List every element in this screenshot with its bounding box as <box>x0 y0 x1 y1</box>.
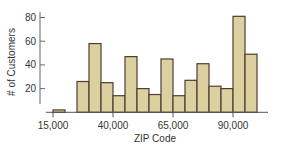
x-ticks: 15,00040,00065,00090,000 <box>38 112 249 131</box>
histogram-bar <box>197 64 209 113</box>
bars-group <box>53 16 257 112</box>
histogram-bar <box>233 16 245 112</box>
histogram-bar <box>221 89 233 113</box>
x-tick-label: 15,000 <box>38 120 69 131</box>
histogram-bar <box>101 83 113 113</box>
histogram-bar <box>137 89 149 113</box>
histogram-bar <box>125 57 137 113</box>
y-tick-label: 60 <box>25 36 37 47</box>
y-tick-label: 40 <box>25 59 37 70</box>
y-axis-title: # of Customers <box>6 28 17 96</box>
x-tick-label: 40,000 <box>98 120 129 131</box>
histogram-bar <box>173 96 185 113</box>
y-ticks: 20406080 <box>25 12 45 94</box>
histogram-bar <box>161 59 173 112</box>
histogram-bar <box>245 54 257 112</box>
y-tick-label: 80 <box>25 12 37 23</box>
y-tick-label: 20 <box>25 83 37 94</box>
histogram-bar <box>113 96 125 113</box>
histogram-bar <box>149 95 161 113</box>
x-tick-label: 65,000 <box>158 120 189 131</box>
histogram-bar <box>77 81 89 112</box>
histogram-bar <box>89 44 101 113</box>
histogram-bar <box>209 86 221 112</box>
histogram-chart: 20406080 15,00040,00065,00090,000 # of C… <box>0 0 286 148</box>
x-axis-title: ZIP Code <box>134 133 176 144</box>
x-tick-label: 90,000 <box>218 120 249 131</box>
histogram-bar <box>185 80 197 112</box>
